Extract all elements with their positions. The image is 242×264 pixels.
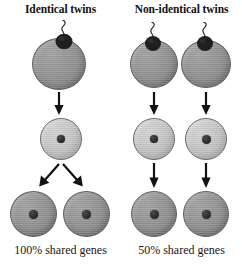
arrow-down-icon-identical-1: [52, 92, 66, 116]
arrow-down-right-icon: [60, 162, 86, 190]
cell-nucleus-icon-embryo-identical-b: [82, 210, 91, 219]
cell-nucleus-icon-zygote-identical: [57, 135, 65, 143]
arrow-down-icon-non-identical-b2: [199, 163, 213, 189]
panel-title-non-identical-twins: Non-identical twins: [121, 3, 242, 16]
cell-nucleus-icon-zygote-non-identical-a: [150, 135, 158, 143]
arrow-down-icon-non-identical-a1: [147, 92, 161, 116]
sperm-icon-a: [140, 22, 166, 54]
twins-genetics-diagram: Identical twins Non-identical twins: [0, 0, 242, 264]
sperm-icon-b: [192, 22, 218, 54]
panel-title-identical-twins: Identical twins: [0, 3, 121, 16]
caption-shared-genes-identical: 100% shared genes: [0, 243, 121, 257]
cell-nucleus-icon-embryo-non-identical-b: [202, 210, 211, 219]
arrow-down-left-icon: [36, 162, 62, 190]
arrow-down-icon-non-identical-a2: [147, 163, 161, 189]
cell-nucleus-icon-zygote-non-identical-b: [202, 135, 211, 144]
arrow-down-icon-non-identical-b1: [199, 92, 213, 116]
sperm-icon: [51, 20, 77, 52]
cell-nucleus-icon-embryo-non-identical-a: [150, 210, 159, 219]
cell-nucleus-icon-embryo-identical-a: [29, 210, 38, 219]
caption-shared-genes-non-identical: 50% shared genes: [121, 243, 242, 257]
